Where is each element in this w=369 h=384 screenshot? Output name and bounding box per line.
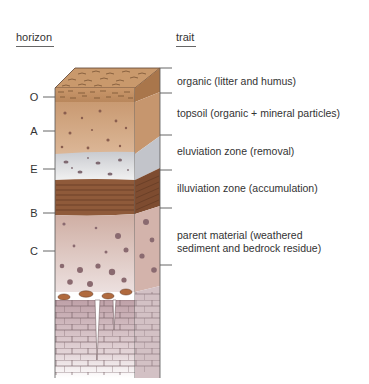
horizon-header: horizon	[16, 31, 52, 43]
horizon-ticks	[43, 97, 55, 251]
horizon-label-E: E	[27, 163, 41, 175]
side-face	[135, 68, 160, 378]
front-face	[55, 88, 135, 378]
trait-organic: organic (litter and humus)	[177, 75, 296, 88]
horizon-label-B: B	[27, 207, 41, 219]
horizon-label-A: A	[27, 125, 41, 137]
layer-O	[55, 88, 135, 102]
trait-header: trait	[176, 31, 194, 43]
horizon-label-C: C	[27, 245, 41, 257]
trait-illuviation: illuviation zone (accumulation)	[177, 182, 318, 195]
boundary-ticks	[160, 68, 172, 265]
layer-A	[55, 102, 135, 154]
layer-E	[55, 152, 135, 180]
trait-eluviation: eluviation zone (removal)	[177, 145, 294, 158]
horizon-label-O: O	[27, 91, 41, 103]
trait-parent-material-line2: sediment and bedrock residue)	[177, 242, 321, 255]
trait-topsoil: topsoil (organic + mineral particles)	[177, 107, 340, 120]
trait-parent-material-line1: parent material (weathered	[177, 229, 302, 242]
